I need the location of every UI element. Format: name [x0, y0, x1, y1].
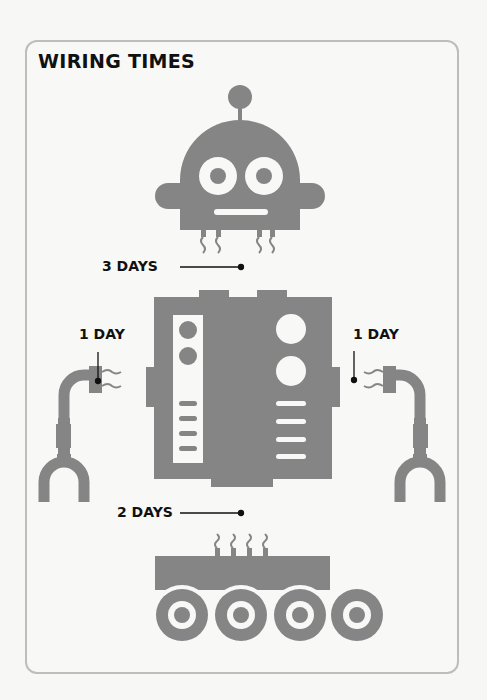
- base-time-label: 2 DAYS: [117, 504, 173, 520]
- robot-right-arm-icon: [364, 366, 440, 502]
- robot-torso-icon: [146, 290, 340, 487]
- head-time-label: 3 DAYS: [102, 258, 158, 274]
- left-arm-time-label: 1 DAY: [79, 326, 125, 342]
- robot-base-icon: [155, 548, 330, 590]
- head-wires-icon: [201, 237, 274, 253]
- base-wires-icon: [215, 534, 267, 548]
- right-arm-time-label: 1 DAY: [353, 326, 399, 342]
- robot-diagram: [0, 0, 487, 700]
- robot-left-arm-icon: [44, 366, 121, 502]
- wheels-icon: [152, 585, 387, 645]
- robot-head-icon: [155, 85, 325, 237]
